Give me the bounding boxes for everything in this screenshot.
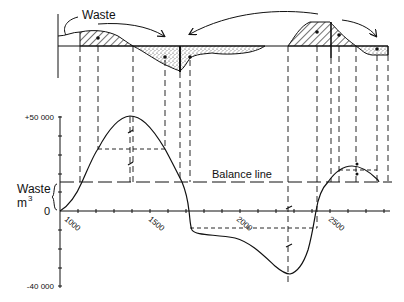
brace-icon: [52, 184, 57, 210]
y-axis-unit-superscript: 3: [28, 194, 33, 203]
x-tick-label: 2000: [235, 215, 255, 234]
waste-label: Waste: [82, 8, 116, 22]
cut-area-1: [80, 31, 133, 46]
y-axis-unit: m: [17, 196, 27, 210]
curve-markers: [128, 130, 292, 247]
x-tick-label: 2500: [327, 215, 347, 234]
fill-area-1: [133, 46, 180, 71]
mass-haul-diagram: Waste +50 000 0 -40 000: [0, 0, 404, 302]
y-axis-label: Waste: [17, 182, 51, 196]
curve-marker-dot: [356, 173, 359, 176]
x-axis: 1000 1500 2000 2500: [60, 209, 390, 233]
y-tick-label: 0: [44, 205, 50, 217]
y-tick-label: -40 000: [27, 282, 55, 291]
curve-marker-dot: [356, 163, 359, 166]
x-tick-label: 1000: [63, 215, 83, 234]
y-tick-label: +50 000: [25, 113, 55, 122]
balance-line-label: Balance line: [212, 168, 272, 180]
fill-area-2: [180, 46, 265, 71]
haul-arrow-3: [342, 20, 376, 36]
fill-area-3: [356, 46, 388, 55]
cut-area-2: [288, 22, 356, 46]
x-tick-label: 1500: [147, 215, 167, 234]
projection-lines: [80, 46, 388, 286]
y-axis: +50 000 0 -40 000 Waste m 3: [17, 113, 62, 291]
